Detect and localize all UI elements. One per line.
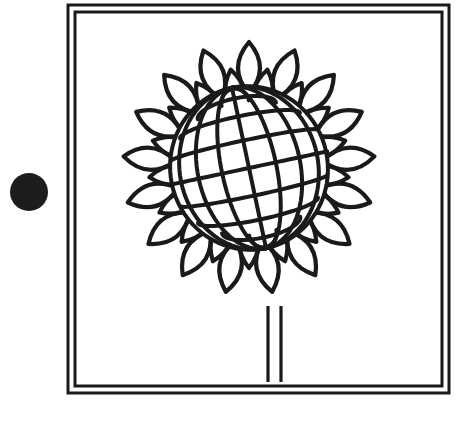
sunflower-illustration bbox=[0, 0, 469, 428]
screenshot-canvas bbox=[0, 0, 469, 428]
black-dot-icon bbox=[10, 173, 48, 211]
